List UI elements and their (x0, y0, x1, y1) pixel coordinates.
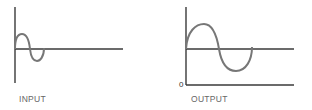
output-label: OUTPUT (191, 94, 228, 104)
output-sine-wave (186, 24, 252, 71)
amplifier-diagram (0, 0, 312, 110)
output-zero-label: 0 (179, 80, 183, 89)
output-graph (186, 7, 294, 85)
input-graph (15, 7, 123, 83)
input-sine-wave (15, 34, 44, 61)
input-label: INPUT (19, 94, 46, 104)
